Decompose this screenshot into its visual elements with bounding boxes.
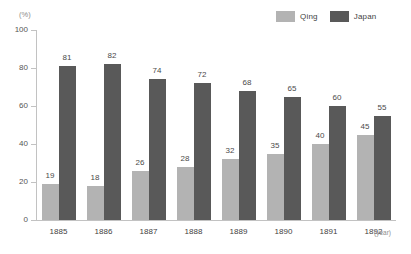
y-axis-tick-label: 100 — [15, 26, 28, 34]
bar-qing-1890 — [267, 154, 284, 221]
x-axis-tick-label: 1890 — [261, 228, 306, 236]
bar-qing-1892 — [357, 135, 374, 221]
plot-area: 1981188518821886267418872872188832681889… — [0, 0, 411, 254]
bar-chart: Qing Japan (%) 1981188518821886267418872… — [0, 0, 411, 254]
x-axis-tick-label: 1888 — [171, 228, 216, 236]
bar-qing-1889 — [222, 159, 239, 220]
bar-value-label: 72 — [190, 71, 215, 79]
bar-value-label: 60 — [325, 94, 350, 102]
bar-japan-1885 — [59, 66, 76, 220]
bar-japan-1890 — [284, 97, 301, 221]
x-axis-tick-label: 1885 — [36, 228, 81, 236]
y-axis-tick — [31, 68, 36, 69]
bar-japan-1887 — [149, 79, 166, 220]
bar-qing-1887 — [132, 171, 149, 220]
y-axis-tick-label: 40 — [19, 140, 28, 148]
bar-japan-1892 — [374, 116, 391, 221]
bar-japan-1889 — [239, 91, 256, 220]
y-axis-tick-label: 0 — [24, 216, 28, 224]
x-axis-tick-label: 1889 — [216, 228, 261, 236]
y-axis-tick — [31, 220, 36, 221]
bar-qing-1885 — [42, 184, 59, 220]
bar-value-label: 65 — [280, 85, 305, 93]
bar-value-label: 55 — [370, 104, 395, 112]
x-axis-tick-label: 1887 — [126, 228, 171, 236]
y-axis-tick — [31, 106, 36, 107]
bar-value-label: 81 — [55, 54, 80, 62]
bar-qing-1891 — [312, 144, 329, 220]
bar-qing-1886 — [87, 186, 104, 220]
bar-qing-1888 — [177, 167, 194, 220]
bar-value-label: 68 — [235, 79, 260, 87]
y-axis-tick-label: 80 — [19, 64, 28, 72]
bar-japan-1886 — [104, 64, 121, 220]
y-axis-tick — [31, 30, 36, 31]
x-axis-unit-label: (year) — [374, 230, 391, 237]
bar-value-label: 82 — [100, 52, 125, 60]
bar-japan-1888 — [194, 83, 211, 220]
y-axis-tick-label: 60 — [19, 102, 28, 110]
y-axis-tick — [31, 144, 36, 145]
x-axis-tick-label: 1891 — [306, 228, 351, 236]
bar-japan-1891 — [329, 106, 346, 220]
x-axis-tick-label: 1886 — [81, 228, 126, 236]
bar-value-label: 74 — [145, 67, 170, 75]
y-axis-tick-label: 20 — [19, 178, 28, 186]
y-axis-tick — [31, 182, 36, 183]
